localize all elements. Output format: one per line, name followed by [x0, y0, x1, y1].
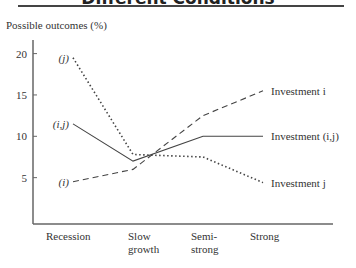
x-category-label: growth — [128, 243, 160, 255]
y-tick-label: 15 — [16, 89, 28, 101]
series-start-label: (i,j) — [53, 118, 70, 131]
y-tick-label: 10 — [16, 130, 28, 142]
series-start-label: (i) — [59, 176, 70, 189]
y-tick-label: 5 — [22, 172, 28, 184]
x-category-label: Slow — [128, 230, 151, 242]
series-start-label: (j) — [59, 52, 70, 65]
y-tick-label: 20 — [16, 48, 28, 60]
line-chart: 5101520RecessionSlowgrowthSemi-strongStr… — [0, 0, 356, 268]
series-end-label: Investment j — [271, 177, 326, 189]
x-category-label: Strong — [250, 230, 280, 242]
series-line — [73, 58, 263, 183]
x-category-label: Recession — [46, 230, 91, 242]
x-category-label: Semi- — [191, 230, 218, 242]
series-end-label: Investment i — [271, 85, 326, 97]
x-category-label: strong — [191, 243, 219, 255]
series-end-label: Investment (i,j) — [271, 130, 339, 143]
